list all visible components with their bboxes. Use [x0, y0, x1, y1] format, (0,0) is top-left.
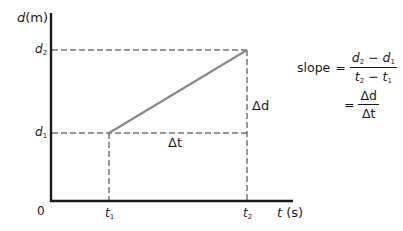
formula-row-1: slope = d2 − d1 t2 − t1 [297, 50, 397, 85]
distance-line [109, 50, 247, 133]
formula-equals-2: = [344, 97, 354, 112]
fraction-1-numerator: d2 − d1 [350, 50, 397, 68]
t2-label: t2 [243, 207, 252, 221]
num-b-sub: 1 [391, 58, 395, 66]
origin-label: 0 [37, 205, 45, 217]
t2-subscript: 2 [248, 213, 252, 221]
x-axis-symbol: t [277, 205, 282, 220]
slope-formula: slope = d2 − d1 t2 − t1 = Δd Δt [297, 50, 397, 121]
y-axis-unit: (m) [25, 10, 48, 25]
t1-subscript: 1 [110, 213, 114, 221]
formula-fraction-2: Δd Δt [358, 88, 379, 121]
den-op: − [368, 69, 378, 84]
t1-label: t1 [105, 207, 114, 221]
x-axis-label: t (s) [277, 206, 303, 219]
d1-subscript: 1 [43, 132, 47, 140]
formula-fraction-1: d2 − d1 t2 − t1 [350, 50, 397, 85]
den-b-sub: 1 [388, 77, 392, 85]
d1-label: d1 [35, 126, 47, 140]
fraction-1-denominator: t2 − t1 [350, 68, 397, 85]
fraction-2-numerator: Δd [358, 88, 379, 105]
den-a-sub: 2 [360, 77, 364, 85]
formula-equals-1: = [335, 60, 345, 75]
formula-row-2: = Δd Δt [344, 88, 397, 121]
y-axis-label: d(m) [17, 11, 48, 24]
x-axis-unit: (s) [286, 205, 303, 220]
d2-symbol: d [35, 42, 43, 56]
fraction-2-denominator: Δt [358, 105, 379, 121]
num-a-sub: 2 [360, 58, 364, 66]
num-b: d [383, 50, 391, 65]
delta-t-label: Δt [168, 136, 182, 149]
d2-subscript: 2 [43, 49, 47, 57]
formula-lhs: slope [297, 60, 330, 75]
num-a: d [352, 50, 360, 65]
d1-symbol: d [35, 125, 43, 139]
num-op: − [368, 50, 378, 65]
d2-label: d2 [35, 43, 47, 57]
delta-d-label: Δd [252, 99, 269, 112]
